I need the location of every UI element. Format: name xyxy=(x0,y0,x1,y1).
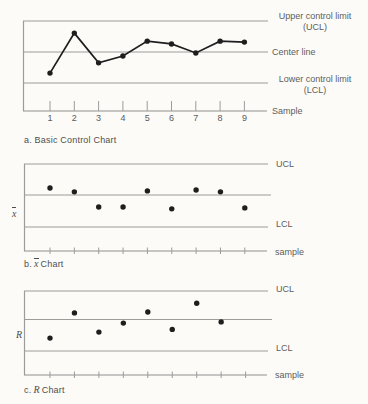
x-bar-symbol: x xyxy=(34,258,39,268)
data-point xyxy=(96,60,101,65)
x-tick-label: 9 xyxy=(242,113,247,123)
data-point xyxy=(169,206,174,211)
y-axis-label-c: R xyxy=(16,329,22,340)
caption-prefix: a. xyxy=(24,135,32,145)
data-point xyxy=(96,329,101,334)
x-tick-label: 6 xyxy=(169,113,174,123)
data-point xyxy=(72,310,77,315)
ucl-label-line2: (UCL) xyxy=(271,22,359,33)
x-tick-label: 4 xyxy=(120,113,125,123)
data-point xyxy=(218,319,223,324)
ucl-label-c: UCL xyxy=(276,284,294,295)
data-point xyxy=(145,188,150,193)
x-bar-symbol: x xyxy=(12,207,16,219)
ucl-label-line1: Upper control limit xyxy=(271,11,359,22)
ucl-label-a: Upper control limit (UCL) xyxy=(271,11,359,33)
lcl-label-line2: (LCL) xyxy=(271,85,359,96)
data-point xyxy=(218,189,223,194)
data-point xyxy=(120,53,125,58)
data-point xyxy=(47,335,52,340)
data-point xyxy=(169,41,174,46)
caption-prefix: c. xyxy=(24,385,31,395)
data-point xyxy=(217,38,222,43)
data-point xyxy=(47,185,52,190)
caption-text: Chart xyxy=(42,385,65,395)
data-point xyxy=(72,189,77,194)
center-line-label-a: Center line xyxy=(272,47,316,58)
x-tick-label: 2 xyxy=(72,113,77,123)
data-point xyxy=(194,301,199,306)
data-point xyxy=(121,320,126,325)
data-point xyxy=(145,309,150,314)
chart-a-caption: a. Basic Control Chart xyxy=(24,135,116,145)
x-tick-label: 3 xyxy=(96,113,101,123)
caption-prefix: b. xyxy=(24,259,32,269)
x-axis-label-b: sample xyxy=(275,247,304,258)
data-point xyxy=(72,30,77,35)
lcl-label-line1: Lower control limit xyxy=(271,74,359,85)
lcl-label-b: LCL xyxy=(276,219,293,230)
data-point xyxy=(193,187,198,192)
lcl-label-a: Lower control limit (LCL) xyxy=(271,74,359,96)
data-point xyxy=(242,39,247,44)
data-point xyxy=(193,50,198,55)
x-tick-label: 8 xyxy=(218,113,223,123)
x-axis-label-c: sample xyxy=(275,370,304,381)
control-charts-figure: Upper control limit (UCL) Center line Lo… xyxy=(0,0,368,404)
data-point xyxy=(242,205,247,210)
chart-c-caption: c.RChart xyxy=(24,384,65,395)
caption-text: Basic Control Chart xyxy=(35,135,117,145)
x-tick-label: 1 xyxy=(47,113,52,123)
caption-text: Chart xyxy=(41,259,64,269)
charts-graphic xyxy=(0,0,368,404)
x-axis-label-a: Sample xyxy=(272,106,303,117)
data-point xyxy=(47,70,52,75)
data-point xyxy=(96,204,101,209)
r-symbol: R xyxy=(33,384,39,395)
lcl-label-c: LCL xyxy=(276,343,293,354)
ucl-label-b: UCL xyxy=(276,159,294,170)
data-point xyxy=(145,38,150,43)
data-point xyxy=(120,204,125,209)
x-tick-label: 5 xyxy=(145,113,150,123)
y-axis-label-b: x xyxy=(12,203,16,221)
x-tick-label: 7 xyxy=(193,113,198,123)
data-point xyxy=(170,327,175,332)
chart-b-caption: b.xChart xyxy=(24,258,64,269)
